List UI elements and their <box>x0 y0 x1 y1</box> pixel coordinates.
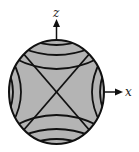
x-axis-arrow <box>104 89 123 96</box>
left-fringe <box>2 72 8 112</box>
z-axis-arrow <box>53 19 60 40</box>
x-axis-label: x <box>125 85 132 99</box>
hyperbolic-fringe-diagram: z x <box>0 0 139 152</box>
z-axis-label: z <box>52 6 60 20</box>
